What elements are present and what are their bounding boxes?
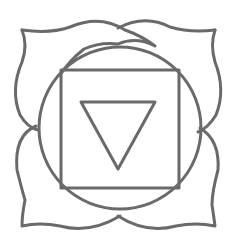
- square: [61, 70, 179, 188]
- petals: [15, 21, 220, 229]
- petal-top-right: [118, 21, 215, 31]
- chakra-diagram: [0, 0, 238, 251]
- petal-bottom-left: [17, 126, 120, 228]
- muladhara-symbol-icon: [0, 0, 238, 251]
- petal-left: [15, 30, 38, 130]
- downward-triangle: [81, 102, 155, 169]
